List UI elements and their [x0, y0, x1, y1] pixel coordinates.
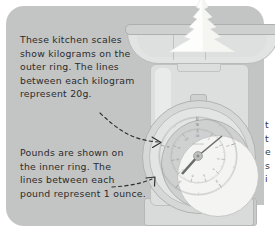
edge-text-line: t [265, 118, 275, 132]
edge-text-line: e [265, 145, 275, 159]
svg-text:10: 10 [184, 136, 190, 142]
svg-text:5: 5 [196, 123, 198, 127]
callout-line: between each kilogram [20, 74, 144, 88]
svg-text:8: 8 [176, 158, 180, 161]
callout-pounds: Pounds are shown on the inner ring. The … [20, 146, 152, 200]
callout-line: the inner ring. The [20, 160, 152, 174]
svg-text:3: 3 [216, 157, 220, 160]
illustration-canvas: 012345 01234567891011 ▫▫▫▫▫ These kitche… [0, 0, 275, 245]
svg-text:5: 5 [202, 173, 205, 177]
flour-mound-icon [163, 0, 241, 54]
kitchen-scale: 012345 01234567891011 ▫▫▫▫▫ [133, 2, 275, 242]
callout-line: lines between each [20, 173, 152, 187]
svg-text:2: 2 [215, 179, 219, 184]
callout-line: These kitchen scales [20, 33, 144, 47]
callout-line: Pounds are shown on [20, 146, 152, 160]
callout-line: show kilograms on the [20, 47, 144, 61]
svg-text:2: 2 [214, 146, 218, 149]
callout-kilograms: These kitchen scales show kilograms on t… [20, 33, 144, 101]
svg-text:9: 9 [177, 146, 181, 149]
callout-line: represent 20g. [20, 87, 144, 101]
dial-graduations: 012345 01234567891011 ▫▫▫▫▫ [142, 100, 254, 212]
edge-text-line: s [265, 159, 275, 173]
svg-text:4: 4 [166, 145, 171, 149]
svg-text:4: 4 [211, 167, 215, 171]
svg-text:1: 1 [225, 144, 230, 147]
edge-text-line: t [265, 132, 275, 146]
callout-line: pound represent 1 ounce. [20, 187, 152, 201]
svg-text:6: 6 [191, 173, 194, 177]
cropped-edge-text: t t e s i [265, 118, 275, 210]
dial-needle-pivot [197, 155, 200, 158]
dial-brand-mark: ▫▫▫▫▫ [192, 142, 204, 146]
svg-text:11: 11 [195, 134, 199, 138]
svg-text:1: 1 [207, 137, 211, 141]
edge-text-line: i [265, 172, 275, 186]
svg-text:3: 3 [178, 179, 182, 184]
callout-line: outer ring. The lines [20, 60, 144, 74]
